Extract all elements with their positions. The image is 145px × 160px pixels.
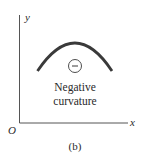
x-axis-label: x: [129, 116, 135, 128]
y-axis-label: y: [24, 11, 30, 23]
negative-curvature-arc: [38, 43, 113, 71]
curvature-diagram: y x O Negative curvature (b): [0, 0, 145, 160]
curvature-label-line2: curvature: [53, 95, 96, 107]
minus-circle-icon: [69, 60, 82, 73]
origin-label: O: [8, 124, 16, 136]
figure-caption: (b): [69, 140, 82, 153]
curvature-label-line1: Negative: [54, 81, 96, 94]
